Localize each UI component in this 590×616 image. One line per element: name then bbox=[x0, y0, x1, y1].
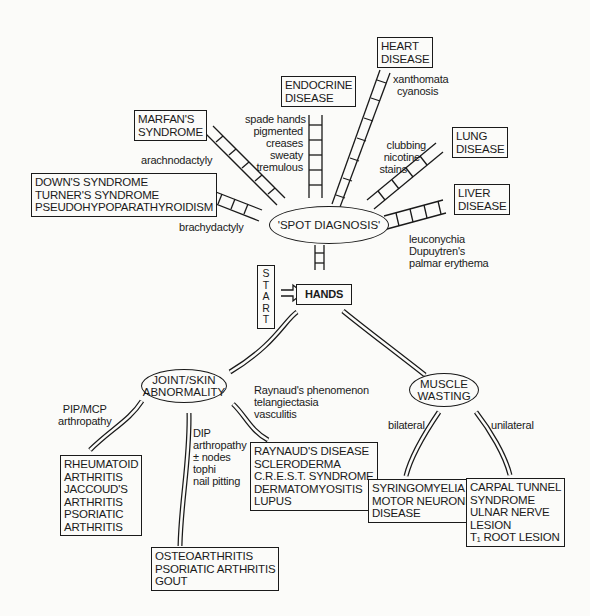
sign: Dupuytren's bbox=[409, 245, 489, 257]
box-line: ENDOCRINE bbox=[285, 79, 352, 92]
node-line: ABNORMALITY bbox=[143, 386, 225, 399]
box-line: SYNDROME bbox=[138, 126, 203, 139]
signs-endocrine: spade hands pigmented creases sweaty tre… bbox=[245, 113, 303, 173]
box-osteoarthritis-psoriatic-gout: OSTEOARTHRITIS PSORIATIC ARTHRITIS GOUT bbox=[151, 547, 279, 591]
box-line: DISEASE bbox=[372, 507, 473, 520]
signs-liver: leuconychia Dupuytren's palmar erythema bbox=[409, 233, 489, 269]
sign: arthropathy bbox=[193, 439, 246, 451]
hub-label: 'SPOT DIAGNOSIS' bbox=[278, 219, 381, 232]
box-line: ULNAR NERVE bbox=[470, 506, 561, 519]
node-line: JOINT/SKIN bbox=[152, 374, 215, 387]
sign: pigmented bbox=[245, 125, 303, 137]
box-line: DISEASE bbox=[458, 200, 506, 213]
sign: Raynaud's phenomenon bbox=[254, 384, 369, 396]
sign: stains bbox=[370, 163, 426, 175]
node-line: MUSCLE bbox=[420, 378, 468, 391]
box-line: ARTHRITIS bbox=[64, 471, 138, 484]
box-hands: HANDS bbox=[296, 284, 352, 305]
ladder-hands bbox=[315, 245, 324, 270]
box-raynauds-scleroderma-crest: RAYNAUD'S DISEASE SCLERODERMA C.R.E.S.T.… bbox=[250, 442, 378, 511]
box-line: PSEUDOHYPOPARATHYROIDISM bbox=[35, 201, 213, 214]
start-letter: A bbox=[262, 291, 269, 303]
box-line: TURNER'S SYNDROME bbox=[35, 189, 213, 202]
box-line: LUPUS bbox=[254, 495, 374, 508]
sign: tremulous bbox=[245, 161, 303, 173]
sign: vasculitis bbox=[254, 408, 369, 420]
sign: nicotine bbox=[370, 151, 426, 163]
box-line: PSORIATIC ARTHRITIS bbox=[155, 563, 275, 576]
label-bilateral: bilateral bbox=[388, 419, 425, 431]
sign: DIP bbox=[193, 427, 246, 439]
box-line: LESION bbox=[470, 519, 561, 532]
sign: palmar erythema bbox=[409, 257, 489, 269]
sign: tophi bbox=[193, 463, 246, 475]
box-line: CARPAL TUNNEL bbox=[470, 481, 561, 494]
box-line: DISEASE bbox=[456, 143, 504, 156]
box-liver-disease: LIVER DISEASE bbox=[454, 184, 510, 215]
sign: leuconychia bbox=[409, 233, 489, 245]
label-unilateral: unilateral bbox=[491, 419, 534, 431]
box-heart-disease: HEART DISEASE bbox=[377, 37, 433, 68]
ladder-liver bbox=[384, 200, 446, 229]
box-syringomyelia-mnd: SYRINGOMYELIA MOTOR NEURONE DISEASE bbox=[368, 479, 477, 523]
box-line: SYRINGOMYELIA bbox=[372, 482, 473, 495]
box-line: DOWN'S SYNDROME bbox=[35, 176, 213, 189]
box-line: GOUT bbox=[155, 575, 275, 588]
ladder-endocrine bbox=[309, 115, 322, 198]
box-line: SCLERODERMA bbox=[254, 458, 374, 471]
hub-spot-diagnosis: 'SPOT DIAGNOSIS' bbox=[269, 206, 389, 244]
sign: spade hands bbox=[245, 113, 303, 125]
sign: PIP/MCP bbox=[58, 403, 111, 415]
box-marfans-syndrome: MARFAN'S SYNDROME bbox=[134, 110, 207, 141]
sign: creases bbox=[245, 137, 303, 149]
box-carpal-tunnel-ulnar-t1: CARPAL TUNNEL SYNDROME ULNAR NERVE LESIO… bbox=[466, 478, 565, 547]
box-line: ARTHRITIS bbox=[64, 521, 138, 534]
sign: xanthomata bbox=[393, 73, 448, 85]
box-line: PSORIATIC bbox=[64, 508, 138, 521]
box-downs-turners-pseudohypoparathyroidism: DOWN'S SYNDROME TURNER'S SYNDROME PSEUDO… bbox=[31, 173, 217, 217]
signs-lung: clubbing nicotine stains bbox=[370, 139, 426, 175]
box-rheumatoid-jaccouds-psoriatic: RHEUMATOID ARTHRITIS JACCOUD'S ARTHRITIS… bbox=[60, 455, 142, 536]
signs-joint-right: Raynaud's phenomenon telangiectasia vasc… bbox=[254, 384, 369, 420]
start-label: S T A R T bbox=[257, 265, 275, 329]
box-line: RHEUMATOID bbox=[64, 458, 138, 471]
sign: nail pitting bbox=[193, 475, 246, 487]
box-line: JACCOUD'S bbox=[64, 483, 138, 496]
box-line: DERMATOMYOSITIS bbox=[254, 483, 374, 496]
box-line: OSTEOARTHRITIS bbox=[155, 550, 275, 563]
sign: telangiectasia bbox=[254, 396, 369, 408]
box-line: MOTOR NEURONE bbox=[372, 495, 473, 508]
signs-joint-middle: DIP arthropathy ± nodes tophi nail pitti… bbox=[193, 427, 246, 487]
sign-arachnodactyly: arachnodactyly bbox=[141, 154, 212, 166]
node-muscle-wasting: MUSCLE WASTING bbox=[409, 373, 479, 407]
box-line: DISEASE bbox=[381, 53, 429, 66]
box-line: LUNG bbox=[456, 130, 504, 143]
start-letter: S bbox=[262, 268, 269, 280]
sign: arthropathy bbox=[58, 415, 111, 427]
box-endocrine-disease: ENDOCRINE DISEASE bbox=[281, 76, 356, 107]
signs-heart: xanthomata cyanosis bbox=[393, 73, 448, 97]
box-line: MARFAN'S bbox=[138, 113, 203, 126]
box-line: ARTHRITIS bbox=[64, 496, 138, 509]
sign-brachydactyly: brachydactyly bbox=[179, 221, 244, 233]
box-line: DISEASE bbox=[285, 92, 352, 105]
box-line: C.R.E.S.T. SYNDROME bbox=[254, 470, 374, 483]
box-line: T₁ ROOT LESION bbox=[470, 531, 561, 544]
sign: ± nodes bbox=[193, 451, 246, 463]
box-line: LIVER bbox=[458, 187, 506, 200]
node-joint-skin-abnormality: JOINT/SKIN ABNORMALITY bbox=[141, 369, 227, 403]
node-line: WASTING bbox=[417, 390, 470, 403]
sign: sweaty bbox=[245, 149, 303, 161]
box-line: SYNDROME bbox=[470, 494, 561, 507]
sign: clubbing bbox=[370, 139, 426, 151]
box-line: RAYNAUD'S DISEASE bbox=[254, 445, 374, 458]
sign: cyanosis bbox=[393, 85, 448, 97]
signs-joint-left: PIP/MCP arthropathy bbox=[58, 403, 111, 427]
start-letter: T bbox=[263, 314, 269, 326]
box-lung-disease: LUNG DISEASE bbox=[452, 127, 508, 158]
box-line: HEART bbox=[381, 40, 429, 53]
